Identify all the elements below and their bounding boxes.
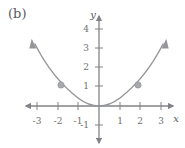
y-tick-label-3: 3: [83, 43, 89, 53]
x-tick-label-2: 2: [137, 116, 143, 126]
y-axis: 4 3 2 1 -1 y: [80, 9, 103, 143]
plot-area: -3 -2 -1 1 2 3 x 4 3 2 1 -1 y: [0, 0, 185, 148]
x-axis-label: x: [173, 113, 179, 124]
x-tick-label-3: 3: [158, 116, 164, 126]
x-tick-label--3: -3: [33, 116, 42, 126]
data-point-left[interactable]: [58, 82, 64, 88]
y-tick-label-2: 2: [83, 62, 89, 72]
y-tick-label-1: 1: [83, 81, 89, 91]
x-tick-label-1: 1: [117, 116, 123, 126]
data-point-right[interactable]: [135, 82, 141, 88]
figure-panel-b: (b) -3 -2 -1 1 2 3 x: [0, 0, 185, 148]
y-axis-label: y: [89, 9, 96, 20]
x-tick-label--2: -2: [54, 116, 63, 126]
y-tick-label-4: 4: [83, 24, 89, 34]
y-tick-label--1: -1: [80, 120, 89, 130]
